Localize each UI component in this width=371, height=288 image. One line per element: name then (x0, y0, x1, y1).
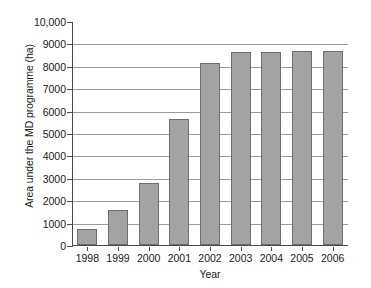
y-tick-label: 8000 (18, 62, 66, 72)
x-tick-mark (302, 247, 303, 251)
bar-2004 (261, 52, 281, 245)
y-axis-tick-labels: 010002000300040005000600070008000900010,… (18, 22, 66, 246)
y-tick-label: 4000 (18, 151, 66, 161)
bar-1998 (77, 229, 97, 245)
bar-2000 (139, 183, 159, 245)
y-tick-mark (67, 89, 72, 90)
x-tick-mark (149, 247, 150, 251)
x-tick-mark (271, 247, 272, 251)
plot-area (72, 22, 348, 246)
bars-group (72, 22, 348, 246)
y-tick-label: 7000 (18, 84, 66, 94)
bar-2006 (323, 51, 343, 245)
y-tick-mark (67, 67, 72, 68)
y-tick-mark (67, 134, 72, 135)
y-tick-label: 0 (18, 241, 66, 251)
y-tick-label: 3000 (18, 174, 66, 184)
x-tick-mark (241, 247, 242, 251)
y-tick-mark (67, 44, 72, 45)
bar-2001 (169, 119, 189, 245)
y-tick-mark (67, 246, 72, 247)
y-tick-mark (67, 112, 72, 113)
bar-2003 (231, 52, 251, 245)
x-tick-mark (210, 247, 211, 251)
y-tick-label: 2000 (18, 196, 66, 206)
y-tick-label: 6000 (18, 107, 66, 117)
x-tick-mark (179, 247, 180, 251)
y-tick-label: 9000 (18, 39, 66, 49)
y-tick-mark (67, 22, 72, 23)
y-tick-label: 1000 (18, 219, 66, 229)
x-tick-mark (118, 247, 119, 251)
x-tick-mark (333, 247, 334, 251)
y-tick-label: 5000 (18, 129, 66, 139)
bar-1999 (108, 210, 128, 245)
x-tick-label: 2006 (313, 252, 353, 264)
y-tick-label: 10,000 (18, 17, 66, 27)
y-tick-mark (67, 224, 72, 225)
y-tick-mark (67, 179, 72, 180)
x-tick-mark (87, 247, 88, 251)
bar-2005 (292, 51, 312, 245)
y-tick-mark (67, 156, 72, 157)
bar-2002 (200, 63, 220, 245)
x-axis-title: Year (72, 268, 348, 280)
y-tick-mark (67, 201, 72, 202)
bar-chart-figure: Area under the MD programme (ha) 0100020… (0, 0, 371, 288)
